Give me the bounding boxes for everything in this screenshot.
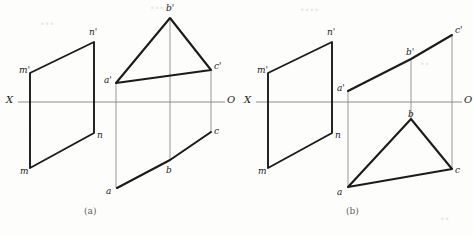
triangle-front-view-a <box>116 18 211 83</box>
figure-root: ••••• •••• ••• •• •• <box>0 0 473 236</box>
axis-label-o-a: O <box>227 95 235 105</box>
vertex-label-b-a: b <box>166 166 172 175</box>
vertex-label-m-b: m <box>258 167 267 176</box>
vertex-label-a-b: a <box>337 188 342 197</box>
projection-drawing-canvas <box>0 0 473 236</box>
vertex-label-n-prime-a: n' <box>89 28 97 37</box>
vertex-label-c-prime-a: c' <box>214 62 222 71</box>
panel-b <box>256 35 462 187</box>
vertex-label-m-a: m <box>20 167 29 176</box>
axis-label-o-b: O <box>464 95 472 105</box>
vertex-label-a-prime-a: a' <box>104 76 112 85</box>
vertex-label-n-prime-b: n' <box>327 28 335 37</box>
vertex-label-n-a: n <box>97 131 103 140</box>
triangle-front-view-b <box>348 35 452 91</box>
vertex-label-b-b: b <box>408 110 414 119</box>
vertex-label-b-prime-b: b' <box>406 48 414 57</box>
vertex-label-a-a: a <box>106 187 111 196</box>
axis-label-x-a: X <box>6 95 13 105</box>
vertex-label-a-prime-b: a' <box>337 84 345 93</box>
vertex-label-m-prime-a: m' <box>19 66 30 75</box>
axis-label-x-b: X <box>244 95 251 105</box>
plane-mn-parallelogram-b <box>268 42 332 168</box>
panel-caption-a: (a) <box>84 207 96 216</box>
vertex-label-b-prime-a: b' <box>166 4 174 13</box>
panel-a <box>18 18 225 188</box>
vertex-label-c-a: c <box>214 127 219 136</box>
panel-caption-b: (b) <box>346 207 359 216</box>
plane-mn-parallelogram-a <box>30 42 94 168</box>
vertex-label-m-prime-b: m' <box>257 66 268 75</box>
triangle-top-view-b <box>348 119 452 187</box>
vertex-label-c-b: c <box>455 166 460 175</box>
vertex-label-c-prime-b: c' <box>455 26 463 35</box>
triangle-top-view-a <box>117 132 211 188</box>
vertex-label-n-b: n <box>335 131 341 140</box>
